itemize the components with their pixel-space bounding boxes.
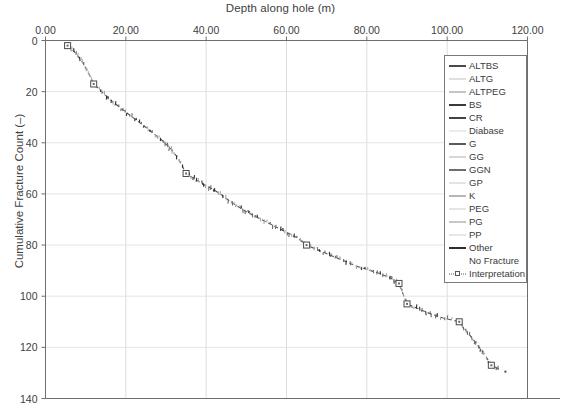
- fracture-tick: [264, 219, 265, 223]
- data-point-center: [306, 244, 308, 246]
- fracture-tick: [123, 108, 124, 111]
- fracture-tick: [121, 108, 122, 111]
- legend-label: ALTBS: [467, 59, 498, 72]
- legend-label: GGN: [467, 163, 491, 176]
- legend-label: Interpretation: [467, 267, 525, 280]
- data-point-center: [490, 364, 492, 366]
- fracture-tick: [426, 311, 427, 315]
- fracture-tick: [260, 217, 261, 221]
- fracture-tick: [194, 175, 195, 179]
- data-point-center: [93, 83, 95, 85]
- legend-entry-list: ALTBSALTGALTPEGBSCRDiabaseGGGGGNGPKPEGPG…: [448, 59, 524, 280]
- legend-swatch-k: [448, 189, 467, 202]
- data-point-center: [458, 321, 460, 323]
- fracture-tick: [169, 147, 170, 151]
- fracture-tick: [126, 113, 127, 116]
- legend-swatch-pp: [448, 228, 467, 241]
- legend-entry[interactable]: ALTBS: [448, 59, 524, 72]
- legend-label: BS: [467, 98, 482, 111]
- legend-label: ALTG: [467, 72, 493, 85]
- legend-entry[interactable]: BS: [448, 98, 524, 111]
- legend-entry[interactable]: PEG: [448, 202, 524, 215]
- fracture-tick: [358, 266, 359, 268]
- legend-swatch-altbs: [448, 59, 467, 72]
- data-point-center: [185, 172, 187, 174]
- legend-label: CR: [467, 111, 483, 124]
- fracture-tick: [241, 206, 242, 209]
- fracture-tick: [412, 305, 413, 308]
- fracture-tick: [392, 276, 393, 278]
- legend-marker-icon: [455, 271, 460, 276]
- legend-swatch-peg: [448, 202, 467, 215]
- fracture-tick: [148, 129, 149, 131]
- legend-entry[interactable]: K: [448, 189, 524, 202]
- legend-entry[interactable]: GP: [448, 176, 524, 189]
- legend-swatch-interpretation: [448, 267, 467, 280]
- legend-label: Diabase: [467, 124, 504, 137]
- fracture-tick: [209, 186, 210, 191]
- fracture-tick: [202, 181, 203, 185]
- fracture-tick: [101, 90, 102, 94]
- legend-entry[interactable]: GG: [448, 150, 524, 163]
- fracture-tick: [240, 205, 241, 208]
- legend-label: GG: [467, 150, 484, 163]
- legend-swatch-ggn: [448, 163, 467, 176]
- legend-entry[interactable]: G: [448, 137, 524, 150]
- legend-swatch-cr: [448, 111, 467, 124]
- data-point-trailing: [504, 371, 506, 373]
- fracture-tick: [447, 315, 448, 319]
- fracture-tick: [220, 191, 221, 195]
- fracture-tick: [82, 59, 83, 63]
- fracture-tick: [228, 200, 229, 204]
- data-point-center: [67, 45, 69, 47]
- data-point-center: [406, 303, 408, 305]
- legend-swatch-diabase: [448, 124, 467, 137]
- legend-entry[interactable]: GGN: [448, 163, 524, 176]
- fracture-tick: [331, 253, 332, 257]
- legend-entry[interactable]: No Fracture: [448, 254, 524, 267]
- legend-entry[interactable]: Other: [448, 241, 524, 254]
- legend[interactable]: ALTBSALTGALTPEGBSCRDiabaseGGGGGNGPKPEGPG…: [444, 55, 527, 283]
- legend-label: PG: [467, 215, 483, 228]
- fracture-tick: [196, 178, 197, 182]
- legend-label: ALTPEG: [467, 85, 506, 98]
- fracture-tick: [89, 74, 90, 77]
- legend-swatch-gg: [448, 150, 467, 163]
- legend-label: PEG: [467, 202, 489, 215]
- fracture-tick: [377, 270, 378, 274]
- fracture-tick: [257, 215, 258, 218]
- fracture-tick: [310, 244, 311, 248]
- fracture-tick: [143, 125, 144, 127]
- legend-swatch-g: [448, 137, 467, 150]
- fracture-tick: [270, 222, 271, 224]
- legend-swatch-altg: [448, 72, 467, 85]
- legend-label: PP: [467, 228, 482, 241]
- fracture-tick: [252, 213, 253, 217]
- legend-swatch-gp: [448, 176, 467, 189]
- fracture-tick-marks: [69, 44, 499, 370]
- legend-swatch-pg: [448, 215, 467, 228]
- legend-entry[interactable]: ALTG: [448, 72, 524, 85]
- legend-entry[interactable]: PP: [448, 228, 524, 241]
- legend-entry[interactable]: Interpretation: [448, 267, 524, 280]
- fracture-tick: [471, 336, 472, 340]
- legend-label: G: [467, 137, 476, 150]
- fracture-tick: [222, 195, 223, 198]
- fracture-tick: [451, 317, 452, 320]
- data-point-center: [398, 282, 400, 284]
- legend-entry[interactable]: CR: [448, 111, 524, 124]
- legend-entry[interactable]: PG: [448, 215, 524, 228]
- fracture-tick: [86, 68, 87, 71]
- legend-swatch-bs: [448, 98, 467, 111]
- legend-label: Other: [467, 241, 493, 254]
- chart-root: Depth along hole (m) Cumulative Fracture…: [0, 0, 561, 412]
- fracture-tick: [99, 87, 100, 91]
- legend-swatch-no-fracture: [448, 254, 467, 267]
- legend-entry[interactable]: Diabase: [448, 124, 524, 137]
- fracture-tick: [214, 188, 215, 192]
- fracture-tick: [248, 210, 249, 213]
- legend-entry[interactable]: ALTPEG: [448, 85, 524, 98]
- fracture-tick: [80, 57, 81, 61]
- legend-label: No Fracture: [467, 254, 519, 267]
- fracture-tick: [496, 368, 497, 370]
